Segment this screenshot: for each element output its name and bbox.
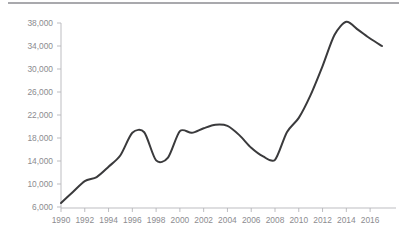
y-tick-label: 6,000 bbox=[32, 202, 53, 212]
x-tick-label: 1996 bbox=[123, 215, 142, 225]
y-axis-tick-labels: 6,00010,00014,00018,00022,00026,00030,00… bbox=[27, 18, 53, 212]
line-chart-figure: 6,00010,00014,00018,00022,00026,00030,00… bbox=[0, 0, 407, 243]
x-tick-label: 2014 bbox=[337, 215, 356, 225]
x-axis: 1990199219941996199820002002200420062008… bbox=[52, 208, 396, 225]
x-tick-label: 2016 bbox=[361, 215, 380, 225]
x-tick-label: 2008 bbox=[266, 215, 285, 225]
x-axis-tick-labels: 1990199219941996199820002002200420062008… bbox=[52, 215, 380, 225]
y-axis-ticks bbox=[57, 23, 61, 207]
chart-canvas: 6,00010,00014,00018,00022,00026,00030,00… bbox=[0, 0, 407, 243]
x-tick-label: 2012 bbox=[313, 215, 332, 225]
y-tick-label: 18,000 bbox=[27, 133, 53, 143]
x-tick-label: 2010 bbox=[289, 215, 308, 225]
y-axis: 6,00010,00014,00018,00022,00026,00030,00… bbox=[27, 18, 61, 212]
x-tick-label: 2000 bbox=[171, 215, 190, 225]
x-axis-ticks bbox=[61, 208, 370, 212]
x-tick-label: 1998 bbox=[147, 215, 166, 225]
x-tick-label: 1990 bbox=[52, 215, 71, 225]
data-line-series-1 bbox=[61, 22, 382, 203]
x-tick-label: 1992 bbox=[75, 215, 94, 225]
y-tick-label: 34,000 bbox=[27, 41, 53, 51]
y-tick-label: 26,000 bbox=[27, 87, 53, 97]
x-tick-label: 2006 bbox=[242, 215, 261, 225]
y-tick-label: 22,000 bbox=[27, 110, 53, 120]
y-tick-label: 14,000 bbox=[27, 156, 53, 166]
x-tick-label: 1994 bbox=[99, 215, 118, 225]
plot-area bbox=[61, 22, 382, 203]
y-tick-label: 30,000 bbox=[27, 64, 53, 74]
x-tick-label: 2002 bbox=[194, 215, 213, 225]
y-tick-label: 10,000 bbox=[27, 179, 53, 189]
y-tick-label: 38,000 bbox=[27, 18, 53, 28]
x-tick-label: 2004 bbox=[218, 215, 237, 225]
